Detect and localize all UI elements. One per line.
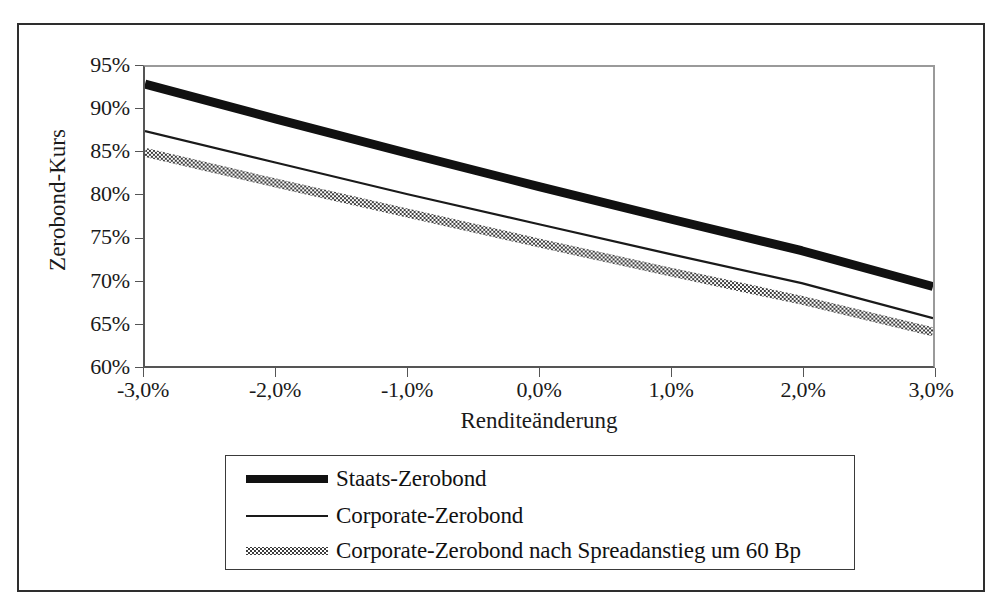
legend-entry-staats-zerobond: Staats-Zerobond xyxy=(240,464,487,494)
x-axis-tick xyxy=(935,368,936,377)
x-tick-label: 0,0% xyxy=(479,378,599,402)
x-tick-label: 3,0% xyxy=(871,378,991,402)
x-tick-label: 1,0% xyxy=(611,378,731,402)
x-axis-tick xyxy=(143,368,144,377)
x-tick-label: 2,0% xyxy=(743,378,863,402)
x-axis-tick xyxy=(275,368,276,377)
thin-line-swatch xyxy=(240,505,332,527)
chart-figure: 95% 90% 85% 80% 75% 70% 65% 60% -3,0% -2… xyxy=(0,0,1001,608)
x-axis-tick xyxy=(671,368,672,377)
y-tick-label: 60% xyxy=(58,356,130,378)
x-axis-title: Renditeänderung xyxy=(143,408,935,434)
x-tick-label: -2,0% xyxy=(215,378,335,402)
series-line xyxy=(145,84,933,286)
legend-label: Corporate-Zerobond nach Spreadanstieg um… xyxy=(336,539,801,563)
legend-entry-corporate-zerobond: Corporate-Zerobond xyxy=(240,501,523,531)
thick-line-swatch xyxy=(240,468,332,490)
checkered-line-swatch xyxy=(240,540,332,562)
x-axis-tick xyxy=(803,368,804,377)
legend-entry-corporate-zerobond-spread: Corporate-Zerobond nach Spreadanstieg um… xyxy=(240,536,801,566)
series-line xyxy=(145,152,933,331)
x-axis-tick xyxy=(539,368,540,377)
y-tick-label: 95% xyxy=(58,54,130,76)
legend-label: Corporate-Zerobond xyxy=(336,504,523,528)
y-axis-title: Zerobond-Kurs xyxy=(46,80,70,320)
x-axis-tick xyxy=(407,368,408,377)
series-canvas xyxy=(145,67,933,366)
legend-label: Staats-Zerobond xyxy=(336,467,487,491)
plot-area xyxy=(143,65,935,368)
legend: Staats-Zerobond Corporate-Zerobond Corpo… xyxy=(225,455,855,570)
x-tick-label: -1,0% xyxy=(347,378,467,402)
x-tick-label: -3,0% xyxy=(83,378,203,402)
series-line xyxy=(145,131,933,318)
